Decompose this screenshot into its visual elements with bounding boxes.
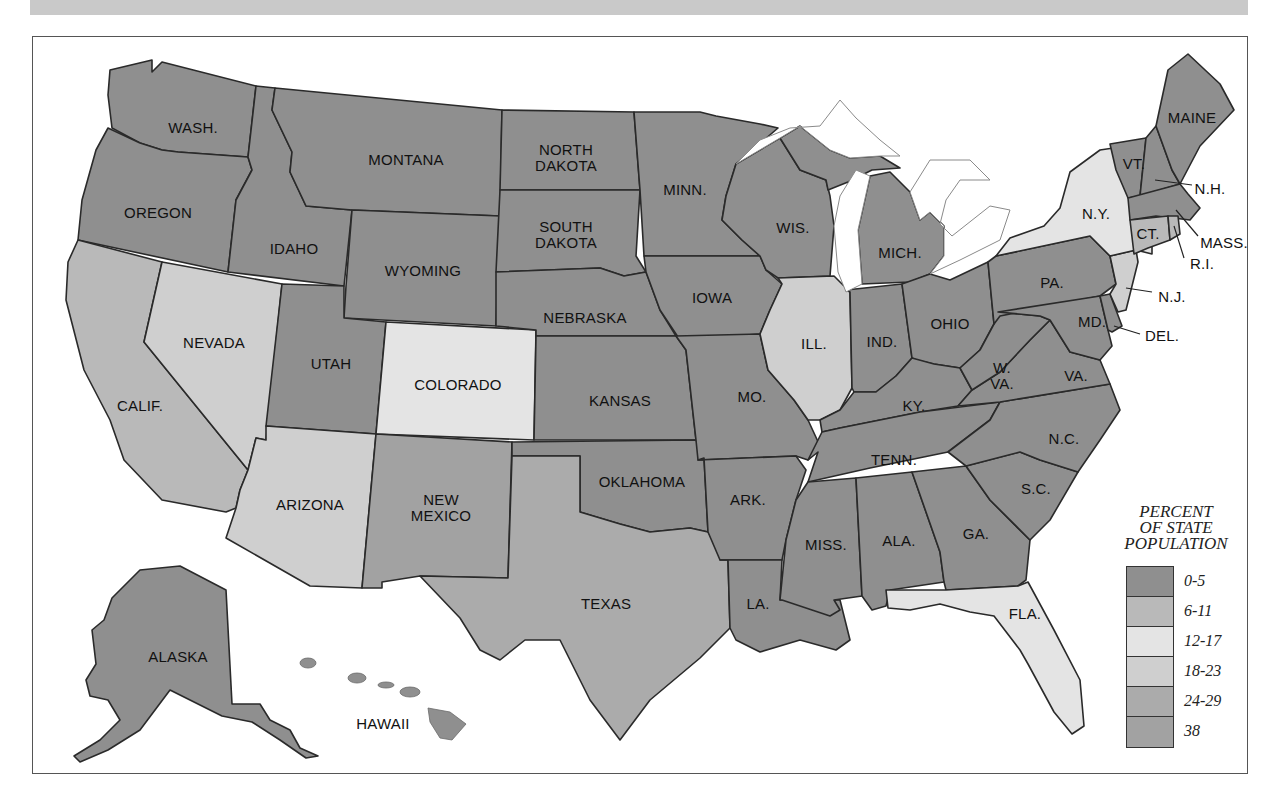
label-south-dakota-line2: DAKOTA [535,234,597,251]
label-ohio: OHIO [930,316,969,332]
legend-swatches [1126,566,1174,748]
legend-label: 24-29 [1184,686,1221,716]
legend-label: 6-11 [1184,596,1221,626]
label-west-virginia-line1: W. [993,359,1011,376]
label-virginia: VA. [1064,368,1088,384]
legend-swatch-12-17 [1127,627,1173,657]
legend-label: 0-5 [1184,566,1221,596]
label-new-york: N.Y. [1082,206,1110,222]
state-florida[interactable] [886,582,1084,734]
label-georgia: GA. [963,526,989,542]
label-new-mexico: NEW MEXICO [411,492,471,524]
label-pennsylvania: PA. [1040,275,1064,291]
label-texas: TEXAS [581,596,631,612]
state-kansas[interactable] [534,336,696,440]
label-washington: WASH. [168,120,218,136]
label-nebraska: NEBRASKA [543,310,626,326]
label-maine: MAINE [1168,110,1217,126]
label-wisconsin: WIS. [776,220,809,236]
label-arkansas: ARK. [730,492,766,508]
label-michigan: MICH. [878,245,922,261]
label-illinois: ILL. [801,336,827,352]
label-south-carolina: S.C. [1021,481,1051,497]
label-iowa: IOWA [692,290,732,306]
label-idaho: IDAHO [270,241,319,257]
label-montana: MONTANA [368,152,443,168]
label-missouri: MO. [738,389,767,405]
label-north-carolina: N.C. [1049,431,1080,447]
legend-swatch-6-11 [1127,597,1173,627]
legend-swatch-18-23 [1127,657,1173,687]
legend-labels: 0-5 6-11 12-17 18-23 24-29 38 [1184,566,1221,746]
label-north-dakota-line1: NORTH [539,141,593,158]
label-hawaii: HAWAII [356,716,409,732]
label-south-dakota-line1: SOUTH [539,218,593,235]
label-kentucky: KY. [903,398,926,414]
label-new-mexico-line2: MEXICO [411,507,471,524]
label-connecticut: CT. [1136,226,1159,242]
label-south-dakota: SOUTH DAKOTA [535,219,597,251]
label-alabama: ALA. [882,533,915,549]
label-kansas: KANSAS [589,393,651,409]
label-louisiana: LA. [746,596,769,612]
label-mississippi: MISS. [805,537,847,553]
label-new-mexico-line1: NEW [423,491,459,508]
label-new-jersey: N.J. [1158,289,1185,305]
label-tennessee: TENN. [871,452,917,468]
label-delaware: DEL. [1145,328,1179,344]
label-utah: UTAH [311,356,352,372]
label-vermont: VT. [1123,156,1145,172]
legend-label: 12-17 [1184,626,1221,656]
label-indiana: IND. [867,334,898,350]
legend-label: 38 [1184,716,1221,746]
label-colorado: COLORADO [414,377,501,393]
label-nevada: NEVADA [183,335,245,351]
label-california: CALIF. [117,398,163,414]
legend-swatch-38 [1127,717,1173,747]
label-north-dakota-line2: DAKOTA [535,157,597,174]
legend-swatch-0-5 [1127,567,1173,597]
label-maryland: MD. [1078,314,1106,330]
legend-title: PERCENT OF STATE POPULATION [1106,504,1246,552]
legend-title-line3: POPULATION [1124,534,1227,553]
label-rhode-island: R.I. [1190,256,1214,272]
label-new-hampshire: N.H. [1195,181,1226,197]
legend-label: 18-23 [1184,656,1221,686]
label-massachusetts: MASS. [1200,235,1248,251]
label-minnesota: MINN. [663,182,707,198]
label-oregon: OREGON [124,205,192,221]
label-west-virginia: W. VA. [990,360,1014,392]
label-wyoming: WYOMING [385,263,461,279]
label-west-virginia-line2: VA. [990,375,1014,392]
label-north-dakota: NORTH DAKOTA [535,142,597,174]
label-arizona: ARIZONA [276,497,344,513]
label-florida: FLA. [1009,606,1041,622]
legend-swatch-24-29 [1127,687,1173,717]
label-alaska: ALASKA [148,649,208,665]
label-oklahoma: OKLAHOMA [599,474,686,490]
